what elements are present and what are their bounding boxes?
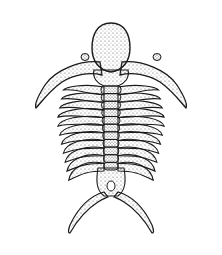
axial-ring: [103, 147, 118, 155]
trilobite-illustration: [0, 0, 222, 255]
terminal-node: [107, 181, 115, 191]
axial-ring: [102, 101, 121, 109]
axial-ring: [103, 124, 120, 132]
glabella: [92, 23, 130, 72]
axial-ring: [102, 109, 120, 117]
cephalon: [92, 23, 130, 86]
axial-ring: [103, 132, 119, 140]
left-pygidial-spine: [69, 192, 109, 233]
right-pygidial-spine: [114, 192, 154, 233]
axial-ring: [104, 155, 119, 163]
axial-ring: [101, 94, 120, 102]
left-eye: [81, 54, 89, 61]
thoracic-axis: [101, 86, 121, 170]
axial-ring: [101, 86, 121, 94]
axial-ring: [102, 117, 120, 125]
right-eye: [153, 54, 161, 61]
axial-ring: [103, 139, 119, 147]
pygidium: [69, 168, 154, 233]
